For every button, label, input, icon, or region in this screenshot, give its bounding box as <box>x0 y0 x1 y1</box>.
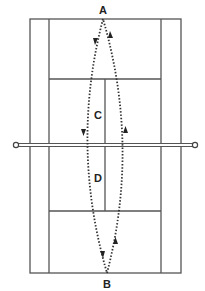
label-a: A <box>99 4 107 16</box>
label-b: B <box>103 278 111 290</box>
net <box>13 142 197 147</box>
tennis-court-diagram: A B C D <box>0 0 205 291</box>
net-band <box>17 144 194 147</box>
net-post-left <box>13 142 18 147</box>
label-c: C <box>94 109 102 121</box>
arrow-up-icon <box>108 31 113 38</box>
arrow-up-icon <box>123 126 128 133</box>
arrow-down-icon <box>100 251 105 258</box>
arrow-down-icon <box>81 129 86 136</box>
net-post-right <box>192 142 197 147</box>
label-d: D <box>94 172 102 184</box>
